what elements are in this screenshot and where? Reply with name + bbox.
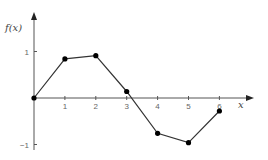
- x-tick-label: 4: [155, 102, 160, 111]
- y-tick-label: 1: [25, 48, 30, 57]
- labels: 1234561−1f(x)x: [4, 22, 244, 150]
- x-axis-label: x: [238, 99, 244, 110]
- data-point-marker: [155, 131, 160, 136]
- y-axis-arrow-icon: [31, 12, 37, 20]
- x-axis-arrow-icon: [246, 95, 254, 101]
- data-point-marker: [93, 53, 98, 58]
- y-tick-label: −1: [20, 141, 30, 150]
- data-point-marker: [62, 56, 67, 61]
- x-tick-label: 5: [186, 102, 191, 111]
- y-axis-label: f(x): [4, 22, 22, 33]
- data-point-marker: [31, 95, 36, 100]
- x-tick-label: 3: [124, 102, 129, 111]
- data-point-marker: [124, 89, 129, 94]
- axes: [31, 12, 254, 150]
- data-point-marker: [186, 140, 191, 145]
- line-chart: 1234561−1f(x)x: [0, 0, 268, 160]
- x-tick-label: 2: [94, 102, 99, 111]
- data-point-marker: [217, 108, 222, 113]
- x-tick-label: 1: [63, 102, 68, 111]
